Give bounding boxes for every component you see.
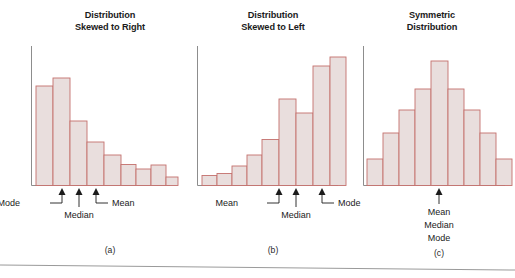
panel-a-title-line1: Distribution	[85, 10, 136, 20]
bar	[448, 89, 464, 186]
median-arrow-icon	[293, 188, 300, 195]
panel-a-median-label: Median	[64, 210, 94, 220]
center-arrow-icon	[436, 188, 443, 195]
bottom-divider	[0, 265, 515, 270]
figure-canvas: Distribution Skewed to Right	[0, 0, 515, 278]
panel-b-caption: (b)	[268, 245, 279, 255]
panel-c-bars	[367, 61, 512, 186]
bar	[383, 133, 399, 186]
bar	[104, 155, 121, 186]
panel-c-mean-label: Mean	[428, 207, 451, 217]
panel-b-title-line1: Distribution	[248, 10, 299, 20]
bar	[496, 159, 512, 186]
mode-leader-line	[322, 195, 334, 203]
panel-c-mode-label: Mode	[428, 233, 451, 243]
panel-b-median-label: Median	[281, 210, 311, 220]
bar	[217, 174, 232, 186]
bar	[151, 165, 166, 186]
bar	[70, 121, 87, 186]
bar	[296, 113, 313, 186]
panel-b-pointers: Mean Median Mode	[215, 188, 360, 220]
mode-leader-line	[50, 195, 62, 203]
three-histograms-figure: Distribution Skewed to Right	[0, 0, 515, 278]
mode-arrow-icon	[319, 188, 326, 195]
bar	[121, 165, 136, 186]
mean-leader-line	[96, 195, 108, 203]
bar	[279, 99, 296, 186]
bar	[136, 169, 151, 186]
panel-a-pointers: Mode Median Mean	[0, 188, 135, 220]
mean-arrow-icon	[276, 188, 283, 195]
panel-b-mean-label: Mean	[215, 198, 238, 208]
panel-c-caption: (c)	[434, 248, 444, 258]
panel-a-caption: (a)	[105, 245, 116, 255]
panel-a-mean-label: Mean	[112, 198, 135, 208]
bar	[415, 89, 431, 186]
bar	[480, 133, 496, 186]
bar	[464, 110, 480, 186]
bar	[313, 66, 330, 186]
mean-leader-line	[267, 195, 279, 203]
panel-a-mode-label: Mode	[0, 198, 20, 208]
panel-a-bars	[36, 78, 178, 186]
bar	[232, 166, 247, 186]
bar	[202, 176, 217, 186]
median-arrow-icon	[76, 188, 83, 195]
bar	[166, 177, 178, 186]
mean-arrow-icon	[93, 188, 100, 195]
bar	[247, 155, 262, 186]
panel-c-title-line2: Distribution	[407, 22, 458, 32]
panel-b-mode-label: Mode	[338, 198, 361, 208]
panel-c-pointers: Mean Median Mode	[424, 188, 454, 243]
bar	[330, 57, 346, 186]
bar	[87, 142, 104, 186]
panel-c: Symmetric Distribution Mean Median	[364, 10, 513, 258]
bar	[36, 86, 53, 186]
panel-c-title-line1: Symmetric	[409, 10, 455, 20]
panel-c-median-label: Median	[424, 220, 454, 230]
bar	[399, 110, 415, 186]
mode-arrow-icon	[59, 188, 66, 195]
panel-b-bars	[202, 57, 346, 186]
bar	[262, 140, 279, 186]
bar	[367, 159, 383, 186]
panel-b: Distribution Skewed to Left	[198, 10, 361, 255]
bar	[53, 78, 70, 186]
panel-a-title-line2: Skewed to Right	[75, 22, 145, 32]
panel-b-title-line2: Skewed to Left	[241, 22, 304, 32]
panel-a: Distribution Skewed to Right	[0, 10, 178, 255]
bar	[431, 61, 448, 186]
